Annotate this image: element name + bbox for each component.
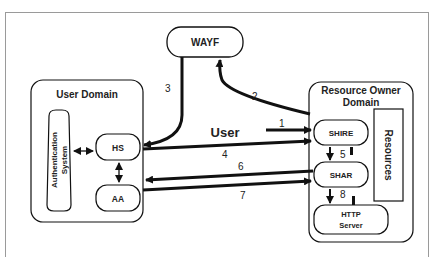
arrow-2: [220, 60, 310, 114]
arrow-3: [144, 57, 182, 145]
aa-node: AA: [96, 185, 140, 211]
arrow-5-return-tick: [350, 147, 353, 155]
user-label: User: [211, 125, 240, 140]
resources-node: Resources: [374, 109, 403, 201]
resource-domain-title-line2: Domain: [343, 97, 380, 108]
arrow-8-label: 8: [340, 189, 346, 200]
resource-owner-domain: Resource Owner Domain Resources SHIRE SH…: [309, 82, 413, 242]
shire-label: SHIRE: [329, 129, 354, 138]
arrow-6: [146, 171, 313, 180]
arrow-4: [143, 141, 311, 149]
auth-system-line1: Authentication: [50, 132, 59, 188]
auth-system-line2: System: [60, 146, 69, 174]
arrow-7-label: 7: [240, 190, 246, 201]
arrow-5-label: 5: [340, 149, 346, 160]
authentication-system-node: Authentication System: [47, 110, 71, 211]
aa-label: AA: [112, 194, 124, 204]
wayf-label: WAYF: [191, 37, 219, 48]
user-domain: User Domain Authentication System HS AA: [31, 80, 143, 222]
resource-domain-title-line1: Resource Owner: [321, 85, 401, 96]
user-domain-title: User Domain: [56, 89, 118, 100]
arrow-2-label: 2: [252, 91, 258, 102]
arrow-4-label: 4: [222, 149, 228, 160]
arrow-8-return-tick: [352, 196, 355, 205]
shar-label: SHAR: [330, 171, 353, 180]
hs-node: HS: [96, 134, 140, 160]
resources-label: Resources: [383, 129, 394, 181]
arrow-3-label: 3: [165, 83, 171, 94]
http-server-node: HTTP Server: [314, 205, 388, 234]
arrow-7: [143, 181, 311, 190]
shar-node: SHAR: [314, 162, 368, 187]
http-server-line2: Server: [339, 221, 362, 230]
http-server-line1: HTTP: [341, 210, 361, 219]
shire-node: SHIRE: [314, 120, 368, 145]
hs-label: HS: [112, 143, 124, 153]
arrow-6-label: 6: [238, 161, 244, 172]
wayf-node: WAYF: [167, 27, 243, 57]
arrow-1-label: 1: [279, 118, 285, 129]
